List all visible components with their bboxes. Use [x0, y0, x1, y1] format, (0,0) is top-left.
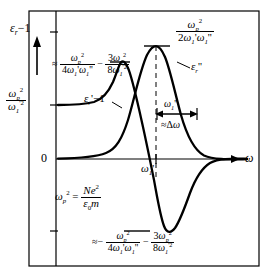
imag-label-prime: '' [198, 60, 202, 72]
min-t2-num-omega: ω [159, 230, 166, 241]
min-t2-den-sub: 1 [165, 248, 168, 255]
max-approx-sign: ≈ [52, 58, 58, 69]
peak-num-sup: 2 [199, 17, 202, 24]
x-axis-tick-label-resonance: ω1' [141, 163, 154, 174]
plasma-equals: = [72, 190, 78, 202]
physics-figure-dielectric-dispersion: εr−1 ωp2 ω1'2 0 ω ω1' ωp2 2ω1'ω1'' ≈ ωp2… [0, 0, 268, 277]
plasma-den-m: m [91, 197, 99, 209]
min-leading-sign: − [98, 236, 104, 247]
y-axis-tick-label-plateau: ωp2 ω1'2 [6, 88, 26, 113]
max-t1-numerator: ωp2 [60, 53, 95, 64]
max-t1-den-omega2: ω [79, 64, 86, 75]
linewidth-omega2: ω [173, 119, 180, 130]
plasma-num-N: N [83, 184, 90, 196]
x-axis-label: ω [245, 152, 253, 164]
plateau-denominator: ω1'2 [6, 100, 26, 113]
max-t1-denominator: 4ω1'ω1'' [60, 64, 95, 76]
plateau-den-omega: ω [8, 100, 16, 112]
peak-den-prime2: '' [208, 31, 212, 43]
plasma-lhs-omega: ω [55, 190, 63, 202]
peak-numerator: ωp2 [176, 19, 214, 31]
max-t2-den-sup: '2 [123, 62, 127, 69]
min-t1-denominator: 4ω1'ω1'' [106, 242, 141, 254]
max-t2-num-sup: 2 [123, 51, 126, 58]
linewidth-prime: '' [174, 98, 178, 109]
plasma-lhs-sup: 2 [66, 189, 69, 196]
max-t2-num-omega: ω [113, 52, 120, 63]
peak-value-annotation: ωp2 2ω1'ω1'' [176, 19, 214, 44]
linewidth-omega: ω [164, 98, 171, 109]
y-axis-label: εr−1 [10, 22, 30, 34]
epsilon-r-real-leader [112, 102, 122, 108]
plasma-num-sup: 2 [96, 183, 99, 190]
plasma-numerator: Ne2 [81, 185, 101, 197]
peak-value-fraction: ωp2 2ω1'ω1'' [176, 19, 214, 44]
epsilon-r-real-label: εr'−1 [84, 93, 105, 104]
y-axis-label-minus-one: −1 [18, 21, 31, 35]
min-t1-den-omega2: ω [125, 242, 132, 253]
plateau-den-sub: 1 [16, 107, 19, 114]
max-operator: − [97, 58, 103, 69]
min-t2-num-sup: 2 [169, 229, 172, 236]
maximum-value-annotation: ≈ ωp2 4ω1'ω1'' − 3ωp2 8ω1'2 [52, 53, 129, 76]
max-t1-den-prime2: '' [89, 64, 93, 75]
min-operator: − [143, 236, 149, 247]
epsilon-r-imaginary-label: εr'' [191, 61, 202, 72]
min-term2-fraction: 3ωp2 8ω1'2 [151, 231, 174, 254]
plasma-fraction: Ne2 ε0m [81, 185, 101, 210]
max-t1-num-omega: ω [71, 52, 78, 63]
max-term2-fraction: 3ωp2 8ω1'2 [105, 53, 128, 76]
min-t1-numerator: ωp2 [106, 231, 141, 242]
plateau-den-sup: '2 [19, 99, 24, 106]
min-t2-denominator: 8ω1'2 [151, 242, 174, 254]
figure-border [29, 11, 259, 266]
linewidth-label-top: ω1'' [164, 99, 178, 109]
plasma-frequency-definition: ωp2 = Ne2 ε0m [55, 185, 101, 210]
min-t1-den-prime2: '' [135, 242, 139, 253]
max-t2-denominator: 8ω1'2 [105, 64, 128, 76]
max-t2-den-sub: 1 [119, 70, 122, 77]
peak-denominator: 2ω1'ω1'' [176, 31, 214, 44]
minimum-value-annotation: ≈− ωp2 4ω1'ω1'' − 3ωp2 8ω1'2 [92, 231, 174, 254]
plateau-fraction: ωp2 ω1'2 [6, 88, 26, 113]
plasma-lhs-sub: p [63, 197, 66, 204]
epsilon-r-imaginary-leader [177, 62, 190, 68]
min-t1-num-sup: 2 [127, 229, 130, 236]
max-t1-den-omega1: ω [67, 64, 74, 75]
min-t1-den-omega1: ω [113, 242, 120, 253]
min-t2-den-sup: '2 [168, 240, 172, 247]
origin-label: 0 [41, 152, 47, 164]
max-t1-num-sup: 2 [81, 51, 84, 58]
y-axis-arrow [33, 36, 41, 75]
max-term1-fraction: ωp2 4ω1'ω1'' [60, 53, 95, 76]
x-tick-prime: ' [152, 162, 154, 174]
plateau-num-sup: 2 [20, 86, 23, 93]
min-term1-fraction: ωp2 4ω1'ω1'' [106, 231, 141, 254]
x-tick-omega: ω [141, 162, 149, 174]
plateau-numerator: ωp2 [6, 88, 26, 100]
plasma-denominator: ε0m [81, 197, 101, 210]
real-label-minus-one: −1 [93, 92, 105, 104]
linewidth-label-bottom: ≈Δω [161, 120, 180, 130]
